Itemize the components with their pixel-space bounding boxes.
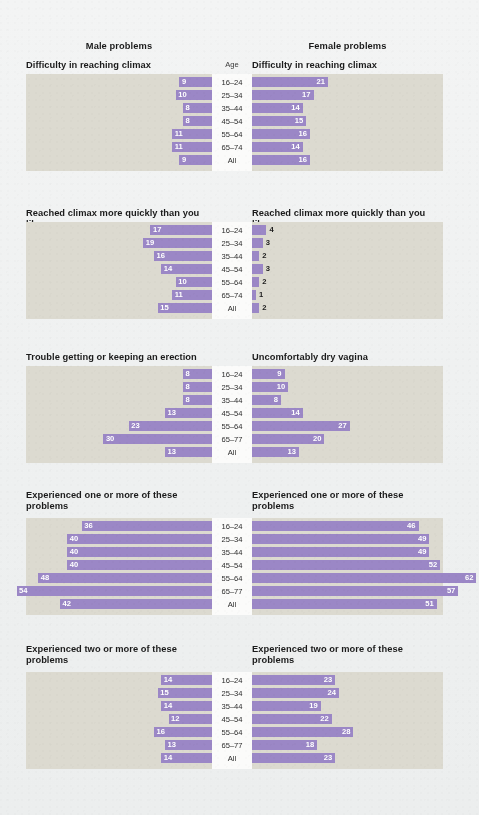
male-bar-4-7 bbox=[60, 599, 212, 609]
female-value-4-6: 57 bbox=[444, 586, 455, 596]
male-value-2-6: 11 bbox=[175, 290, 183, 300]
age-label-4-7: All bbox=[211, 598, 253, 611]
female-bar-4-2 bbox=[252, 534, 429, 544]
female-value-1-6: 14 bbox=[289, 142, 300, 152]
female-value-5-3: 19 bbox=[307, 701, 318, 711]
male-value-3-7: 13 bbox=[167, 447, 175, 457]
male-value-5-3: 14 bbox=[164, 701, 172, 711]
male-value-5-1: 14 bbox=[164, 675, 172, 685]
female-value-5-7: 23 bbox=[321, 753, 332, 763]
female-value-4-2: 49 bbox=[415, 534, 426, 544]
male-value-2-2: 19 bbox=[146, 238, 154, 248]
female-bar-2-4 bbox=[252, 264, 263, 274]
female-panel-title-1: Difficulty in reaching climax bbox=[252, 60, 442, 71]
male-value-4-7: 42 bbox=[62, 599, 70, 609]
age-label-1-1: 16–24 bbox=[211, 76, 253, 89]
age-label-2-5: 55–64 bbox=[211, 276, 253, 289]
male-value-4-1: 36 bbox=[84, 521, 92, 531]
age-label-5-3: 35–44 bbox=[211, 700, 253, 713]
female-value-3-5: 27 bbox=[336, 421, 347, 431]
female-value-1-7: 16 bbox=[296, 155, 307, 165]
male-value-1-1: 9 bbox=[182, 77, 186, 87]
female-value-1-2: 17 bbox=[300, 90, 311, 100]
male-panel-title-3: Trouble getting or keeping an erection bbox=[26, 352, 206, 363]
male-panel-title-1: Difficulty in reaching climax bbox=[26, 60, 206, 71]
age-label-1-4: 45–54 bbox=[211, 115, 253, 128]
male-panel-title-4: Experienced one or more of these problem… bbox=[26, 490, 206, 511]
male-value-1-6: 11 bbox=[175, 142, 183, 152]
age-label-2-6: 65–74 bbox=[211, 289, 253, 302]
female-value-1-3: 14 bbox=[289, 103, 300, 113]
female-value-2-3: 2 bbox=[262, 251, 266, 261]
female-panel-title-3: Uncomfortably dry vagina bbox=[252, 352, 442, 363]
age-label-3-5: 55–64 bbox=[211, 420, 253, 433]
age-label-1-2: 25–34 bbox=[211, 89, 253, 102]
male-value-4-6: 54 bbox=[19, 586, 27, 596]
female-value-4-7: 51 bbox=[423, 599, 434, 609]
female-value-4-4: 52 bbox=[426, 560, 437, 570]
age-label-2-4: 45–54 bbox=[211, 263, 253, 276]
age-column-header: Age bbox=[211, 60, 253, 69]
male-value-5-6: 13 bbox=[167, 740, 175, 750]
age-label-4-6: 65–77 bbox=[211, 585, 253, 598]
male-value-5-2: 15 bbox=[160, 688, 168, 698]
age-label-3-1: 16–24 bbox=[211, 368, 253, 381]
male-value-5-5: 16 bbox=[157, 727, 165, 737]
female-value-3-6: 20 bbox=[310, 434, 321, 444]
male-bar-4-1 bbox=[82, 521, 212, 531]
male-value-2-7: 15 bbox=[160, 303, 168, 313]
male-value-1-7: 9 bbox=[182, 155, 186, 165]
age-label-3-6: 65–77 bbox=[211, 433, 253, 446]
female-value-2-2: 3 bbox=[266, 238, 270, 248]
male-value-2-5: 10 bbox=[178, 277, 186, 287]
female-bar-4-3 bbox=[252, 547, 429, 557]
female-value-2-4: 3 bbox=[266, 264, 270, 274]
male-bar-4-3 bbox=[67, 547, 212, 557]
age-label-5-5: 55–64 bbox=[211, 726, 253, 739]
male-value-4-4: 40 bbox=[70, 560, 78, 570]
male-value-3-2: 8 bbox=[186, 382, 190, 392]
male-value-2-4: 14 bbox=[164, 264, 172, 274]
female-value-5-1: 23 bbox=[321, 675, 332, 685]
female-value-3-2: 10 bbox=[274, 382, 285, 392]
male-section-heading: Male problems bbox=[26, 40, 212, 53]
female-bar-2-1 bbox=[252, 225, 266, 235]
female-bar-4-6 bbox=[252, 586, 458, 596]
age-label-3-2: 25–34 bbox=[211, 381, 253, 394]
age-label-1-7: All bbox=[211, 154, 253, 167]
female-bar-5-5 bbox=[252, 727, 353, 737]
female-panel-title-5: Experienced two or more of these problem… bbox=[252, 644, 442, 665]
male-value-3-6: 30 bbox=[106, 434, 114, 444]
female-value-3-4: 14 bbox=[289, 408, 300, 418]
male-value-1-3: 8 bbox=[186, 103, 190, 113]
age-label-1-3: 35–44 bbox=[211, 102, 253, 115]
male-value-2-3: 16 bbox=[157, 251, 165, 261]
male-bar-4-6 bbox=[17, 586, 212, 596]
female-value-2-5: 2 bbox=[262, 277, 266, 287]
male-value-3-1: 8 bbox=[186, 369, 190, 379]
age-label-5-7: All bbox=[211, 752, 253, 765]
female-bar-2-3 bbox=[252, 251, 259, 261]
age-label-5-2: 25–34 bbox=[211, 687, 253, 700]
female-value-4-5: 62 bbox=[462, 573, 473, 583]
male-value-4-5: 48 bbox=[41, 573, 49, 583]
female-bar-4-4 bbox=[252, 560, 440, 570]
female-value-5-6: 18 bbox=[303, 740, 314, 750]
female-value-2-7: 2 bbox=[262, 303, 266, 313]
age-label-5-4: 45–54 bbox=[211, 713, 253, 726]
male-value-3-4: 13 bbox=[167, 408, 175, 418]
age-label-2-3: 35–44 bbox=[211, 250, 253, 263]
male-value-1-2: 10 bbox=[178, 90, 186, 100]
female-value-2-6: 1 bbox=[259, 290, 263, 300]
female-value-5-4: 22 bbox=[318, 714, 329, 724]
female-value-1-5: 16 bbox=[296, 129, 307, 139]
age-label-3-4: 45–54 bbox=[211, 407, 253, 420]
female-value-5-5: 28 bbox=[339, 727, 350, 737]
age-label-4-2: 25–34 bbox=[211, 533, 253, 546]
female-value-3-7: 13 bbox=[285, 447, 296, 457]
female-bar-2-6 bbox=[252, 290, 256, 300]
male-bar-3-5 bbox=[129, 421, 212, 431]
female-bar-4-7 bbox=[252, 599, 437, 609]
age-label-4-4: 45–54 bbox=[211, 559, 253, 572]
age-label-3-3: 35–44 bbox=[211, 394, 253, 407]
